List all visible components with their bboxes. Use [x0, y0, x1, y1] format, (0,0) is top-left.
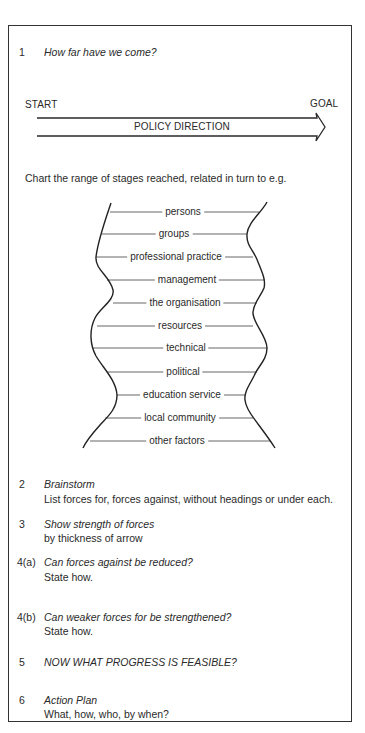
stage-label: resources: [155, 321, 205, 331]
right-wavy-boundary: [245, 202, 275, 448]
section-5-number: 5: [19, 657, 25, 668]
stage-label: groups: [156, 229, 193, 239]
section-3-number: 3: [19, 519, 25, 530]
left-wavy-boundary: [83, 203, 117, 448]
stage-label: other factors: [146, 436, 208, 446]
section-3-body: by thickness of arrow: [44, 533, 143, 544]
stage-label: political: [163, 367, 202, 377]
section-4a-body: State how.: [44, 572, 93, 583]
stage-label: management: [155, 275, 219, 285]
stage-label: education service: [140, 390, 224, 400]
section-3-title: Show strength of forces: [44, 519, 154, 530]
section-2-body: List forces for, forces against, without…: [44, 494, 333, 505]
section-4a-title: Can forces against be reduced?: [44, 557, 193, 568]
section-6-title: Action Plan: [44, 695, 97, 706]
section-2-title: Brainstorm: [44, 479, 95, 490]
section-2-number: 2: [19, 479, 25, 490]
stage-label: technical: [163, 343, 208, 353]
section-5-title: NOW WHAT PROGRESS IS FEASIBLE?: [44, 657, 237, 668]
section-6-number: 6: [19, 695, 25, 706]
stage-label: local community: [141, 413, 219, 423]
section-4b-body: State how.: [44, 626, 93, 637]
section-4b-number: 4(b): [17, 612, 36, 623]
section-6-body: What, how, who, by when?: [44, 709, 169, 720]
section-4a-number: 4(a): [17, 557, 36, 568]
stage-label: professional practice: [127, 252, 225, 262]
stage-label: the organisation: [146, 298, 223, 308]
stage-label: persons: [162, 207, 204, 217]
section-4b-title: Can weaker forces for be strengthened?: [44, 612, 231, 623]
